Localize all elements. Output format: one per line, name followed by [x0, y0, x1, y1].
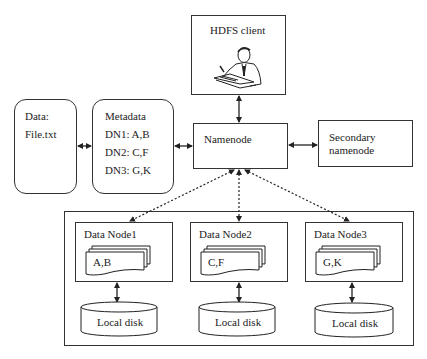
diagram-connectors [0, 0, 427, 359]
datanode-3-blocks: G,K [323, 256, 342, 269]
disk-2-label: Local disk [215, 316, 261, 329]
disk-1-label: Local disk [97, 316, 143, 329]
disk-3-label: Local disk [332, 317, 378, 330]
datanode-1-blocks: A,B [93, 256, 111, 269]
dotted-arrow-dn3 [245, 170, 349, 221]
dotted-arrow-dn1 [130, 170, 234, 221]
datanode-2-blocks: C,F [208, 256, 224, 269]
